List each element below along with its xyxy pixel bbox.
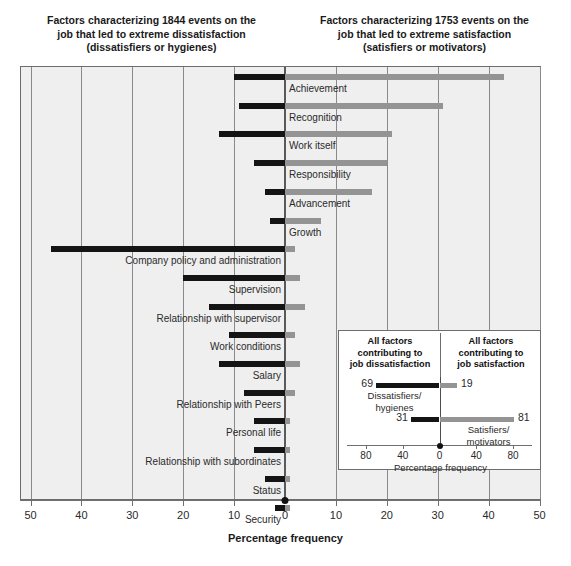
inset-header-left-line3: job dissatisfaction [341,359,439,371]
x-tick [183,500,184,506]
chart-root: Factors characterizing 1844 events on th… [0,0,571,566]
title-satisfaction-line2: job that led to extreme satisfaction [292,28,557,42]
inset-value-negative: 69 [358,377,373,389]
inset-chart: All factors contributing to job dissatis… [338,330,541,470]
inset-axis-title: Percentage frequency [339,462,542,473]
x-tick-label: 30 [432,509,444,521]
inset-header-satisfaction: All factors contributing to job satisfac… [442,336,540,371]
bar-row-label: Supervision [229,283,281,297]
inset-bar-negative [376,383,439,388]
bar-negative [265,476,285,482]
bar-row: Security [21,504,540,533]
x-tick-label: 20 [381,509,393,521]
bar-row: Company policy and administration [21,245,540,274]
inset-tick [476,445,477,449]
inset-value-positive: 81 [518,411,530,423]
x-tick-label: 10 [228,509,240,521]
inset-value-positive: 19 [461,377,473,389]
bar-row-label: Security [245,513,281,527]
x-tick-label: 30 [126,509,138,521]
inset-tick-label: 0 [437,450,443,461]
inset-row-caption-line1: Satisfiers/ [451,424,526,436]
bar-negative [183,275,285,281]
bar-negative [254,160,285,166]
inset-row-caption: Dissatisfiers/hygienes [357,390,432,413]
x-tick-label: 10 [330,509,342,521]
bar-row-label: Recognition [289,111,342,125]
bar-row: Supervision [21,274,540,303]
bar-positive [285,246,295,252]
bar-row-label: Personal life [226,426,281,440]
inset-tick-label: 80 [360,450,371,461]
x-tick [81,500,82,506]
bar-positive [285,418,290,424]
title-satisfaction-line3: (satisfiers or motivators) [292,41,557,55]
title-dissatisfaction-line2: job that led to extreme dissatisfaction [14,28,289,42]
bar-negative [239,103,285,109]
bar-row: Responsibility [21,159,540,188]
x-axis-zero-marker [282,497,289,504]
bar-negative [209,304,285,310]
bar-positive [285,361,300,367]
bar-row: Growth [21,217,540,246]
bar-positive [285,447,290,453]
inset-row-caption: Satisfiers/motivators [451,424,526,447]
x-tick-label: 40 [75,509,87,521]
bar-negative [270,218,285,224]
bar-row-label: Work conditions [210,340,281,354]
x-tick-label: 50 [24,509,36,521]
inset-tick-label: 80 [508,450,519,461]
inset-bar-positive [440,383,457,388]
title-satisfaction: Factors characterizing 1753 events on th… [292,14,557,55]
bar-row: Achievement [21,73,540,102]
bar-row-label: Achievement [289,82,347,96]
bar-row: Relationship with supervisor [21,303,540,332]
bar-row-label: Status [253,484,281,498]
inset-header-dissatisfaction: All factors contributing to job dissatis… [341,336,439,371]
inset-bar-negative [411,417,440,422]
title-satisfaction-line1: Factors characterizing 1753 events on th… [292,14,557,28]
x-tick-label: 0 [282,509,288,521]
inset-header-left-line2: contributing to [341,348,439,360]
bar-row-label: Responsibility [289,168,351,182]
x-tick [336,500,337,506]
bar-row: Recognition [21,102,540,131]
bar-row-label: Relationship with subordinates [145,455,281,469]
chart-titles: Factors characterizing 1844 events on th… [0,14,571,58]
bar-positive [285,275,300,281]
bar-positive [285,332,295,338]
x-tick [132,500,133,506]
x-tick [540,500,541,506]
inset-header-left-line1: All factors [341,336,439,348]
bar-positive [285,218,321,224]
x-axis-line [20,500,541,501]
x-tick [31,500,32,506]
bar-row-label: Relationship with supervisor [156,312,281,326]
bar-positive [285,476,290,482]
x-tick-label: 50 [533,509,545,521]
bar-row: Work itself [21,130,540,159]
bar-row-label: Growth [289,226,321,240]
x-axis-title: Percentage frequency [0,532,571,544]
bar-negative [244,390,285,396]
inset-tick [366,445,367,449]
bar-row: Advancement [21,188,540,217]
bar-row-label: Work itself [289,139,336,153]
bar-positive [285,390,295,396]
title-dissatisfaction: Factors characterizing 1844 events on th… [14,14,289,55]
title-dissatisfaction-line3: (dissatisfiers or hygienes) [14,41,289,55]
inset-header-right-line3: job satisfaction [442,359,540,371]
bar-negative [51,246,285,252]
bar-row-label: Relationship with Peers [177,398,282,412]
inset-header-right-line2: contributing to [442,348,540,360]
inset-zero-marker [437,443,443,449]
inset-tick [513,445,514,449]
bar-positive [285,160,387,166]
bar-positive [285,103,443,109]
x-tick [387,500,388,506]
x-tick-label: 20 [177,509,189,521]
x-tick [234,500,235,506]
inset-header-divider [440,333,441,377]
inset-tick-label: 40 [397,450,408,461]
bar-row-label: Advancement [289,197,350,211]
